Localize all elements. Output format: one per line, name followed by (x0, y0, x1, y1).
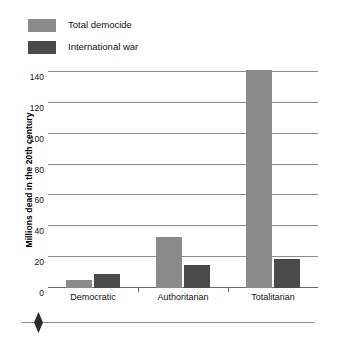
bar (184, 265, 210, 288)
x-axis-category-label: Democratic (70, 293, 116, 302)
y-axis-tick-label: 0 (39, 289, 44, 298)
bar (66, 280, 92, 288)
legend-label-total-democide: Total democide (68, 20, 132, 30)
gridline: 80 (48, 164, 318, 165)
x-axis-category-label: Authoritarian (157, 293, 208, 302)
bar (246, 70, 272, 288)
legend-swatch-international-war (28, 41, 56, 54)
y-axis-tick-label: 80 (35, 166, 44, 175)
plot-area: 020406080100120140DemocraticAuthoritaria… (48, 72, 318, 288)
gridline: 40 (48, 225, 318, 226)
y-axis-tick-label: 60 (35, 196, 44, 205)
gridline: 20 (48, 256, 318, 257)
gridline: 60 (48, 194, 318, 195)
gridline: 120 (48, 102, 318, 103)
legend-item-total-democide: Total democide (28, 16, 228, 34)
y-axis-tick-label: 120 (30, 104, 44, 113)
gridline: 140 (48, 71, 318, 72)
x-axis-tick (138, 288, 139, 292)
y-axis-tick-label: 20 (35, 258, 44, 267)
x-axis-category-label: Totalitarian (251, 293, 295, 302)
bar (94, 274, 120, 288)
bar (274, 259, 300, 288)
legend-label-international-war: International war (68, 42, 138, 52)
y-axis-tick-label: 140 (30, 73, 44, 82)
footer-divider (22, 322, 314, 323)
legend-item-international-war: International war (28, 38, 228, 56)
gridline: 100 (48, 133, 318, 134)
legend-swatch-total-democide (28, 19, 56, 32)
bar (156, 237, 182, 288)
chart-legend: Total democide International war (28, 16, 228, 60)
y-axis-tick-label: 40 (35, 227, 44, 236)
y-axis-tick-label: 100 (30, 135, 44, 144)
diamond-ornament-icon (34, 312, 43, 333)
x-axis-tick (228, 288, 229, 292)
